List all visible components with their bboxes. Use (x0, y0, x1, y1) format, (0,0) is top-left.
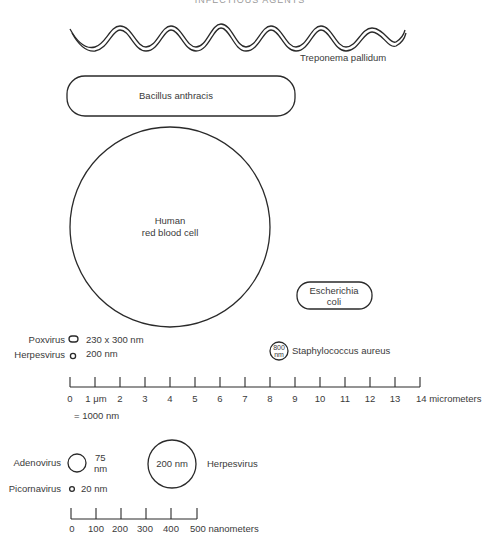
tick-label: 12 (365, 393, 376, 404)
tick-label: 0 (69, 523, 74, 534)
tick-label: 9 (292, 393, 297, 404)
tick-label: 8 (267, 393, 272, 404)
page-header: INFECTIOUS AGENTS (195, 0, 306, 5)
tick-label: 400 (163, 523, 179, 534)
tick-label: 6 (217, 393, 222, 404)
tick-label: 100 (88, 523, 104, 534)
tick-label: 10 (315, 393, 326, 404)
micrometer-scale-ticks: 0 1 μm 2 3 4 5 6 7 8 9 10 11 12 13 14 mi… (67, 393, 481, 404)
picornavirus-shape (70, 487, 75, 492)
tick-label: 200 (112, 523, 128, 534)
poxvirus-shape (69, 336, 78, 342)
rbc-label-line2: red blood cell (142, 227, 199, 238)
staphylococcus-label: Staphylococcus aureus (292, 345, 390, 356)
adenovirus-label: Adenovirus (13, 457, 61, 468)
picornavirus-size: 20 nm (81, 483, 107, 494)
micrometer-conversion-note: = 1000 nm (74, 410, 119, 421)
staphylococcus-size-bottom: nm (274, 351, 284, 358)
adenovirus-size-bottom: nm (94, 463, 107, 474)
tick-label: 7 (242, 393, 247, 404)
herpesvirus-small-size: 200 nm (86, 348, 118, 359)
tick-label: 11 (340, 393, 350, 404)
tick-label: 13 (390, 393, 401, 404)
tick-label: 3 (142, 393, 147, 404)
nanometer-scale-axis (71, 508, 197, 519)
tick-label-unit: 500 nanometers (190, 523, 259, 534)
size-comparison-diagram: INFECTIOUS AGENTS Treponema pallidum Bac… (0, 0, 501, 551)
tick-label: 300 (137, 523, 153, 534)
ecoli-label-line2: coli (327, 296, 341, 307)
staphylococcus-size-top: 800 (273, 344, 285, 351)
ecoli-label-line1: Escherichia (309, 285, 359, 296)
picornavirus-label: Picornavirus (9, 483, 62, 494)
nanometer-scale-ticks: 0 100 200 300 400 500 nanometers (69, 523, 259, 534)
herpesvirus-small-shape (70, 353, 75, 358)
tick-label: 2 (117, 393, 122, 404)
bacillus-anthracis-label: Bacillus anthracis (139, 90, 213, 101)
tick-label: 0 (67, 393, 72, 404)
herpesvirus-large-label: Herpesvirus (207, 458, 258, 469)
adenovirus-shape (68, 454, 86, 472)
herpesvirus-large-size: 200 nm (156, 458, 188, 469)
rbc-label-line1: Human (155, 215, 186, 226)
adenovirus-size-top: 75 (95, 452, 106, 463)
tick-label: 4 (167, 393, 172, 404)
poxvirus-size: 230 x 300 nm (86, 334, 144, 345)
treponema-pallidum-shape (70, 24, 406, 51)
treponema-pallidum-label: Treponema pallidum (300, 52, 386, 63)
herpesvirus-small-label: Herpesvirus (14, 349, 65, 360)
tick-label-unit: 14 micrometers (416, 393, 482, 404)
tick-label: 1 μm (85, 393, 106, 404)
tick-label: 5 (192, 393, 197, 404)
micrometer-scale-axis (70, 377, 420, 387)
poxvirus-label: Poxvirus (29, 334, 66, 345)
